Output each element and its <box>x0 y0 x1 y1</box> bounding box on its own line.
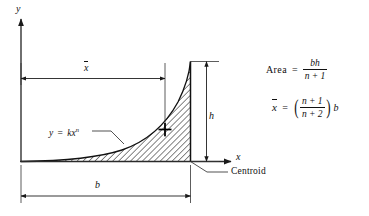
curve-eq-lhs: y <box>49 128 53 138</box>
xbar-overbar <box>84 61 88 62</box>
xbar-letter: x <box>84 62 88 73</box>
area-formula-fraction: bh n + 1 <box>303 58 328 82</box>
b-dimension-label: b <box>95 180 100 190</box>
area-formula-fraction-bar <box>303 69 328 70</box>
curve-eq-exponent: n <box>76 126 79 133</box>
area-formula-lhs: Area <box>266 64 287 75</box>
xbar-formula-tail: b <box>334 102 339 113</box>
formula-block: Area = bh n + 1 x = ( n + 1 n + 2 ) b <box>258 58 369 119</box>
centroid-label: Centroid <box>231 167 266 177</box>
curve-eq-equals: = <box>58 128 63 138</box>
x-axis-label: x <box>236 152 240 162</box>
area-formula-equals: = <box>292 64 298 75</box>
curve-eq-rhs: kx <box>67 128 75 138</box>
xbar-formula-equals: = <box>282 102 288 113</box>
centroid-figure: y x x h b y = kxn Centroid Area = bh n +… <box>0 0 369 216</box>
area-formula-numerator: bh <box>308 58 322 68</box>
curve-label-leader-line <box>92 131 124 144</box>
xbar-formula-letter: x <box>272 101 277 113</box>
xbar-formula-left-paren: ( <box>294 99 298 115</box>
area-formula-denominator: n + 1 <box>303 71 328 81</box>
xbar-formula-fraction-bar <box>300 107 325 108</box>
curve-equation-label: y = kxn <box>49 127 79 139</box>
xbar-formula-overbar <box>272 99 277 100</box>
xbar-formula-denominator: n + 2 <box>300 109 325 119</box>
xbar-formula-numerator: n + 1 <box>300 96 325 106</box>
h-dimension-label: h <box>209 111 214 121</box>
xbar-formula-fraction: n + 1 n + 2 <box>300 96 325 120</box>
xbar-dimension-label: x <box>84 63 88 73</box>
xbar-formula: x = ( n + 1 n + 2 ) b <box>258 96 369 120</box>
centroid-leader-line <box>191 162 229 173</box>
area-formula: Area = bh n + 1 <box>258 58 369 82</box>
y-axis-label: y <box>16 4 20 14</box>
xbar-formula-lhs: x <box>272 101 277 113</box>
xbar-formula-right-paren: ) <box>326 99 330 115</box>
